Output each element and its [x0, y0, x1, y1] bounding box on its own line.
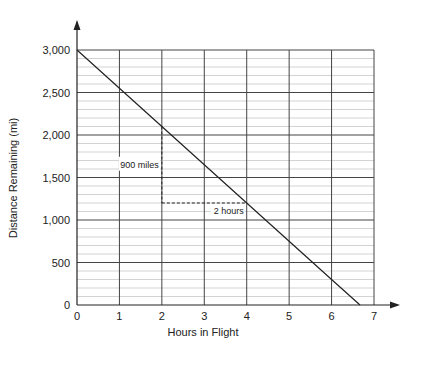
y-tick-label: 500 [52, 257, 70, 269]
y-tick-label: 0 [64, 299, 70, 311]
x-tick-label: 1 [116, 310, 122, 322]
major-gridlines [77, 50, 374, 305]
y-axis-arrow-icon [74, 20, 81, 30]
x-tick-label: 5 [286, 310, 292, 322]
annotations: 900 miles2 hours [119, 127, 247, 217]
x-tick-label: 4 [244, 310, 250, 322]
x-axis-label: Hours in Flight [168, 326, 239, 338]
y-tick-label: 1,000 [42, 214, 70, 226]
x-tick-label: 6 [329, 310, 335, 322]
y-tick-label: 3,000 [42, 44, 70, 56]
rise-label: 900 miles [120, 160, 159, 170]
run-label: 2 hours [214, 206, 245, 216]
y-tick-labels: 05001,0001,5002,0002,5003,000 [42, 44, 70, 311]
x-tick-labels: 01234567 [74, 310, 377, 322]
y-axis-label: Distance Remaining (mi) [7, 118, 19, 238]
chart-canvas: 05001,0001,5002,0002,5003,000 01234567 9… [0, 0, 428, 385]
x-tick-label: 7 [371, 310, 377, 322]
x-tick-label: 2 [159, 310, 165, 322]
y-tick-label: 1,500 [42, 172, 70, 184]
x-tick-label: 0 [74, 310, 80, 322]
y-tick-label: 2,500 [42, 87, 70, 99]
y-tick-label: 2,000 [42, 129, 70, 141]
distance-chart: 05001,0001,5002,0002,5003,000 01234567 9… [0, 0, 428, 385]
x-tick-label: 3 [201, 310, 207, 322]
x-axis-arrow-icon [390, 302, 400, 309]
